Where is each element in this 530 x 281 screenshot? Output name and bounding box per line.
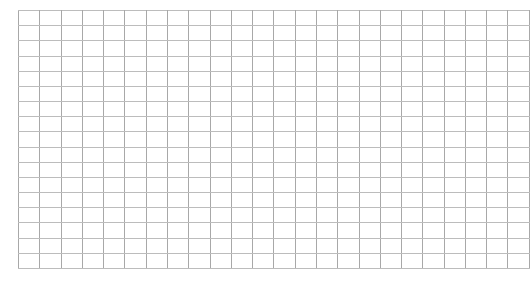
grid-cell <box>359 86 380 101</box>
grid-cell <box>444 41 465 56</box>
grid-cell <box>423 132 444 147</box>
grid-cell <box>146 102 167 117</box>
grid-cell <box>189 238 210 253</box>
grid-cell <box>508 177 529 192</box>
grid-cell <box>380 223 401 238</box>
grid-cell <box>40 223 61 238</box>
grid-cell <box>402 147 423 162</box>
grid-cell <box>210 147 231 162</box>
grid-cell <box>487 208 508 223</box>
grid-cell <box>274 253 295 268</box>
grid-cell <box>444 132 465 147</box>
grid-cell <box>465 11 486 26</box>
grid-cell <box>487 11 508 26</box>
grid-cell <box>125 193 146 208</box>
grid-cell <box>40 102 61 117</box>
grid-cell <box>295 132 316 147</box>
grid-cell <box>231 162 252 177</box>
grid-cell <box>380 86 401 101</box>
grid-cell <box>402 193 423 208</box>
grid-cell <box>189 208 210 223</box>
grid-cell <box>338 86 359 101</box>
grid-cell <box>19 208 40 223</box>
grid-cell <box>295 238 316 253</box>
grid-cell <box>487 238 508 253</box>
grid-cell <box>380 26 401 41</box>
grid-cell <box>19 26 40 41</box>
grid-cell <box>423 177 444 192</box>
grid-cell <box>189 223 210 238</box>
grid-cell <box>253 238 274 253</box>
grid-cell <box>274 238 295 253</box>
grid-cell <box>444 147 465 162</box>
grid-cell <box>274 177 295 192</box>
grid-cell <box>444 26 465 41</box>
grid-cell <box>402 238 423 253</box>
grid-cell <box>274 193 295 208</box>
grid-cell <box>316 26 337 41</box>
grid-cell <box>487 147 508 162</box>
grid-cell <box>210 102 231 117</box>
grid-cell <box>61 11 82 26</box>
grid-cell <box>402 132 423 147</box>
grid-cell <box>125 147 146 162</box>
grid-row <box>19 102 530 117</box>
grid-cell <box>359 117 380 132</box>
grid-cell <box>253 26 274 41</box>
grid-cell <box>380 11 401 26</box>
grid-cell <box>210 41 231 56</box>
grid-cell <box>167 208 188 223</box>
grid-cell <box>231 86 252 101</box>
grid-cell <box>380 147 401 162</box>
grid-cell <box>210 117 231 132</box>
grid-cell <box>508 253 529 268</box>
grid-cell <box>253 117 274 132</box>
grid-cell <box>210 71 231 86</box>
grid-cell <box>380 253 401 268</box>
grid-cell <box>380 71 401 86</box>
grid-cell <box>465 71 486 86</box>
grid-cell <box>423 238 444 253</box>
grid-cell <box>359 102 380 117</box>
grid-cell <box>295 41 316 56</box>
grid-cell <box>61 253 82 268</box>
grid-cell <box>40 26 61 41</box>
grid-cell <box>423 208 444 223</box>
grid-cell <box>444 102 465 117</box>
grid-cell <box>189 162 210 177</box>
grid-cell <box>125 177 146 192</box>
grid-cell <box>465 132 486 147</box>
grid-cell <box>380 177 401 192</box>
grid-cell <box>61 193 82 208</box>
grid-cell <box>423 86 444 101</box>
grid-cell <box>316 177 337 192</box>
grid-cell <box>316 56 337 71</box>
grid-cell <box>487 26 508 41</box>
grid-cell <box>274 117 295 132</box>
grid-cell <box>61 56 82 71</box>
grid-cell <box>253 56 274 71</box>
grid-cell <box>316 11 337 26</box>
grid-cell <box>423 102 444 117</box>
grid-cell <box>274 41 295 56</box>
grid-cell <box>316 238 337 253</box>
grid-cell <box>338 41 359 56</box>
grid-cell <box>82 71 103 86</box>
grid-cell <box>380 208 401 223</box>
grid-cell <box>19 193 40 208</box>
grid-cell <box>210 162 231 177</box>
grid-cell <box>444 117 465 132</box>
grid-cell <box>125 117 146 132</box>
grid-cell <box>253 71 274 86</box>
grid-cell <box>82 117 103 132</box>
grid-cell <box>125 132 146 147</box>
grid-row <box>19 193 530 208</box>
grid-cell <box>210 132 231 147</box>
grid-cell <box>316 223 337 238</box>
grid-cell <box>146 238 167 253</box>
grid-cell <box>189 86 210 101</box>
grid-cell <box>508 26 529 41</box>
grid-cell <box>125 71 146 86</box>
grid-cell <box>189 177 210 192</box>
grid-cell <box>338 162 359 177</box>
